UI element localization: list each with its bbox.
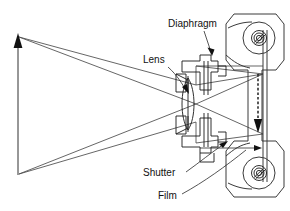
- film-spool-top: [243, 22, 275, 54]
- label-diaphragm: Diaphragm: [168, 18, 217, 56]
- film-spool-bottom: [243, 157, 275, 189]
- lens-label: Lens: [143, 54, 165, 65]
- film-label: Film: [158, 190, 177, 201]
- shutter-label: Shutter: [143, 167, 176, 178]
- image-arrow-inverted: [254, 74, 262, 133]
- diagram-canvas: Diaphragm Lens Shutter Film: [0, 0, 290, 211]
- diaphragm-label: Diaphragm: [168, 18, 217, 29]
- camera-optics-diagram: Diaphragm Lens Shutter Film: [0, 0, 290, 211]
- film-pointer: [200, 145, 262, 151]
- object-arrow: [14, 33, 23, 175]
